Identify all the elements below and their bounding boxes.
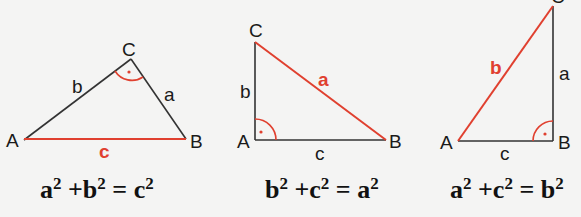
triangle-1: A B C b a c [6,39,203,162]
side-label-b: b [72,76,83,97]
side-label-c: c [500,143,510,164]
vertex-label-a: A [440,132,453,153]
side-label-a: a [559,63,570,84]
eq-equals: = [112,175,127,204]
eq-plus: + [68,175,83,204]
right-angle-arc [255,119,276,140]
eq-term: a [357,175,370,204]
eq-exponent: 2 [53,174,62,193]
side-b-hypotenuse [458,6,553,141]
equation-1: a2 +b2 = c2 [40,174,154,205]
side-label-a: a [318,69,329,90]
eq-exponent: 2 [279,174,288,193]
eq-exponent: 2 [321,174,330,193]
vertex-label-b: B [558,132,571,153]
eq-term: a [450,175,463,204]
eq-term: b [265,175,279,204]
eq-plus: + [294,175,309,204]
vertex-label-b: B [389,131,402,152]
triangle-2: A B C b c a [237,20,402,164]
side-label-c: c [315,143,325,164]
eq-exponent: 2 [97,174,106,193]
equation-3: a2 +c2 = b2 [450,174,564,205]
vertex-label-c: C [551,0,565,7]
triangle-3: A B C a c b [440,0,571,164]
vertex-label-a: A [237,131,250,152]
eq-exponent: 2 [555,174,564,193]
eq-exponent: 2 [145,174,154,193]
vertex-label-c: C [249,20,263,41]
eq-term: b [83,175,97,204]
vertex-label-a: A [6,130,19,151]
eq-exponent: 2 [504,174,513,193]
side-label-c: c [99,141,110,162]
side-a-hypotenuse [255,42,386,140]
eq-term: a [40,175,53,204]
eq-plus: + [478,175,493,204]
right-angle-dot [127,70,130,73]
right-angle-dot [259,130,262,133]
side-a [131,59,186,139]
eq-term: c [134,175,146,204]
side-label-a: a [164,84,175,105]
eq-exponent: 2 [463,174,472,193]
vertex-label-c: C [122,39,136,60]
vertex-label-b: B [190,131,203,152]
eq-term: c [309,175,321,204]
eq-exponent: 2 [370,174,379,193]
right-angle-arc [533,121,553,141]
right-angle-dot [543,132,546,135]
eq-term: b [541,175,555,204]
eq-term: c [493,175,505,204]
side-label-b: b [490,57,502,78]
side-label-b: b [240,81,251,102]
eq-equals: = [336,175,351,204]
eq-equals: = [519,175,534,204]
equation-2: b2 +c2 = a2 [265,174,379,205]
